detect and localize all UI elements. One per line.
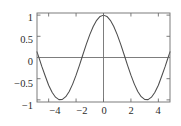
xtick-label-0: 0 <box>97 106 111 117</box>
ytick-label-0: 0 <box>8 57 33 68</box>
xtick-label-neg-4: −4 <box>44 106 66 117</box>
xtick-label-2: 2 <box>124 106 138 117</box>
ytick-label-1: 1 <box>8 13 33 24</box>
ytick-label-neg-1: −1 <box>4 101 33 112</box>
xtick-label-4: 4 <box>151 106 165 117</box>
chart-figure: 1 0.5 0 −0.5 −1 −4 −2 0 2 4 <box>0 0 181 126</box>
ytick-label-0-5: 0.5 <box>8 35 33 46</box>
xtick-label-neg-2: −2 <box>71 106 93 117</box>
ytick-label-neg-0-5: −0.5 <box>4 79 33 90</box>
